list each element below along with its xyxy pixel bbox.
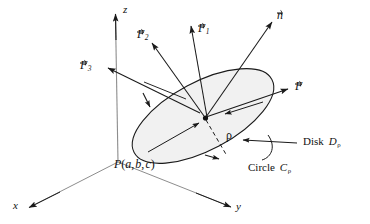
axis-z — [116, 14, 119, 162]
vector-F2-subscript: 2 — [145, 33, 149, 42]
vector-F3-symbol-group: F — [80, 59, 87, 71]
figure-canvas: z x y n F F 1 — [0, 0, 370, 224]
circle-label-leader — [262, 135, 272, 160]
circulation-arrow-left — [143, 93, 150, 107]
vector-F1-subscript: 1 — [206, 27, 210, 36]
axis-label-y: y — [236, 201, 241, 212]
circle-symbol: C — [280, 161, 287, 173]
vector-label-F3: F 3 — [80, 59, 91, 73]
axis-label-x: x — [13, 200, 18, 211]
vector-F3-subscript: 3 — [88, 64, 92, 73]
vector-label-F1: F 1 — [198, 22, 209, 36]
axis-label-z: z — [123, 4, 127, 15]
disk-symbol: D — [329, 135, 337, 147]
point-label-P: P(a, b, c) — [114, 158, 155, 170]
vector-F-symbol-group: F — [295, 80, 302, 92]
circle-label: CircleCρ — [248, 162, 291, 175]
circle-label-word: Circle — [248, 161, 275, 173]
vector-label-F: F — [295, 80, 302, 92]
vector-label-n: n — [277, 9, 283, 21]
axis-x — [29, 162, 118, 208]
point-comma-2: , — [141, 157, 144, 171]
vector-F3-letter: F — [80, 58, 87, 72]
point-comma-1: , — [131, 157, 134, 171]
vector-n-symbol-group: n — [277, 9, 283, 21]
disk-symbol-subscript: ρ — [337, 141, 340, 148]
vector-F2-symbol-group: F — [137, 28, 144, 40]
vector-label-F2: F 2 — [137, 28, 148, 42]
vector-F1-letter: F — [198, 21, 205, 35]
vector-F1-symbol-group: F — [198, 22, 205, 34]
vector-F-letter: F — [295, 79, 302, 93]
vector-n-letter: n — [277, 8, 283, 22]
disk-label-word: Disk — [303, 135, 324, 147]
vector-F2-letter: F — [137, 27, 144, 41]
disk-label-leader — [243, 140, 297, 143]
circle-symbol-subscript: ρ — [288, 167, 291, 174]
point-paren-close: ) — [151, 157, 155, 171]
radius-label-rho: ρ — [226, 129, 232, 141]
circulation-arrow-bottom — [205, 155, 219, 159]
diagram-vector-graphics — [0, 0, 370, 224]
disk-label: DiskDρ — [303, 136, 341, 149]
